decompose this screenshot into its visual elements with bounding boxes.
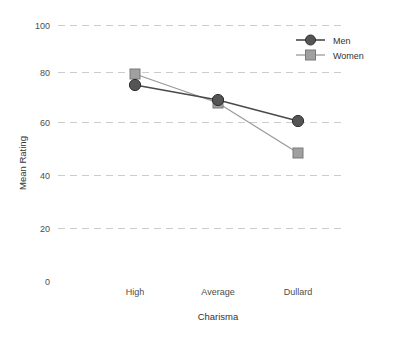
- legend-label-women: Women: [333, 51, 364, 61]
- legend: Men Women: [296, 35, 364, 61]
- data-point-women-high: [130, 69, 140, 79]
- legend-marker-women-square-icon: [306, 50, 316, 60]
- y-tick-label-80: 80: [40, 68, 50, 78]
- series-men: [129, 79, 303, 126]
- legend-marker-men-circle-icon: [306, 35, 316, 45]
- gridlines: [58, 26, 345, 229]
- x-tick-label-high: High: [126, 287, 145, 297]
- data-point-women-dullard: [293, 148, 303, 158]
- x-axis-title: Charisma: [198, 311, 239, 322]
- y-tick-label-20: 20: [40, 224, 50, 234]
- y-tick-label-40: 40: [40, 171, 50, 181]
- x-tick-label-average: Average: [201, 287, 234, 297]
- x-tick-label-dullard: Dullard: [284, 287, 313, 297]
- data-point-men-high: [129, 79, 140, 90]
- line-chart: 100 80 60 40 20 0 Mean Rating High Avera…: [0, 0, 393, 343]
- series-women: [130, 69, 303, 158]
- legend-item-women[interactable]: Women: [296, 50, 364, 61]
- chart-canvas: 100 80 60 40 20 0 Mean Rating High Avera…: [0, 0, 393, 343]
- legend-item-men[interactable]: Men: [296, 35, 351, 46]
- y-axis-title: Mean Rating: [17, 136, 28, 190]
- y-tick-label-100: 100: [35, 21, 50, 31]
- series-women-line: [135, 74, 298, 153]
- data-point-men-average: [212, 94, 223, 105]
- y-tick-label-60: 60: [40, 118, 50, 128]
- data-point-men-dullard: [292, 115, 303, 126]
- legend-label-men: Men: [333, 36, 351, 46]
- y-tick-label-0: 0: [45, 277, 50, 287]
